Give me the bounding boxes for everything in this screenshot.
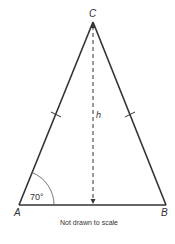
height-label: h xyxy=(96,110,101,120)
vertex-label-b: B xyxy=(161,207,168,218)
caption: Not drawn to scale xyxy=(60,219,118,226)
angle-label: 70° xyxy=(30,192,44,202)
vertex-label-c: C xyxy=(89,8,97,19)
vertex-label-a: A xyxy=(13,207,21,218)
height-arrowhead-icon xyxy=(91,199,96,204)
side-bc xyxy=(93,22,166,205)
triangle-diagram: C A B h 70° Not drawn to scale xyxy=(0,0,175,244)
side-ac xyxy=(19,22,93,205)
